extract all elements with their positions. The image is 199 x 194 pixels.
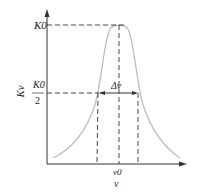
y-axis-label: Kν [15,85,26,97]
center-label: ν0 [113,168,122,177]
arrow-right-icon [132,91,138,95]
y-axis-arrow-icon [45,9,50,17]
left-width-dashed-line [97,93,98,164]
line-profile-diagram [0,0,199,194]
profile-curve [53,25,180,158]
x-axis-label: ν [114,179,118,189]
half-max-denominator: 2 [35,96,40,106]
half-max-numerator: K0 [33,80,45,90]
width-label: Δν [111,81,121,91]
arrow-left-icon [99,91,105,95]
peak-label: K0 [34,20,47,31]
x-axis-arrow-icon [179,162,187,167]
